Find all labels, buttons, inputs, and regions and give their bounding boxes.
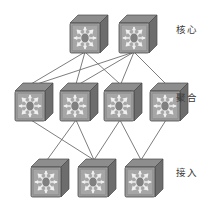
switch-node-core-2[interactable] (119, 15, 157, 53)
link-aggr4-access3 (141, 120, 166, 160)
link-aggr3-access2 (94, 120, 120, 160)
core-tier-nodes (70, 15, 157, 53)
access-tier-nodes (31, 159, 163, 197)
aggregation-tier-nodes (15, 83, 188, 121)
tier-label-access: 接入 (176, 167, 197, 178)
tier-label-core: 核心 (176, 24, 197, 35)
link-aggr2-access1 (47, 120, 76, 160)
switch-node-core-1[interactable] (70, 15, 108, 53)
link-core2-aggr4 (134, 52, 166, 84)
switch-node-aggr-2[interactable] (60, 83, 98, 121)
link-aggr3-access3 (120, 120, 141, 160)
link-core2-aggr2 (76, 52, 134, 86)
tier-label-aggregation: 聚合 (176, 92, 197, 103)
switch-node-access-1[interactable] (31, 159, 69, 197)
switch-node-access-3[interactable] (125, 159, 163, 197)
network-topology-diagram: 核心 聚合 接入 (0, 0, 224, 211)
switch-node-aggr-3[interactable] (104, 83, 142, 121)
link-core2-aggr3 (120, 52, 134, 86)
switch-node-aggr-1[interactable] (15, 83, 53, 121)
switch-node-access-2[interactable] (78, 159, 116, 197)
link-core2-aggr1 (31, 52, 134, 86)
link-core1-aggr3 (85, 52, 120, 84)
link-group-core-aggregation (31, 52, 166, 86)
link-group-aggregation-access (31, 120, 166, 160)
